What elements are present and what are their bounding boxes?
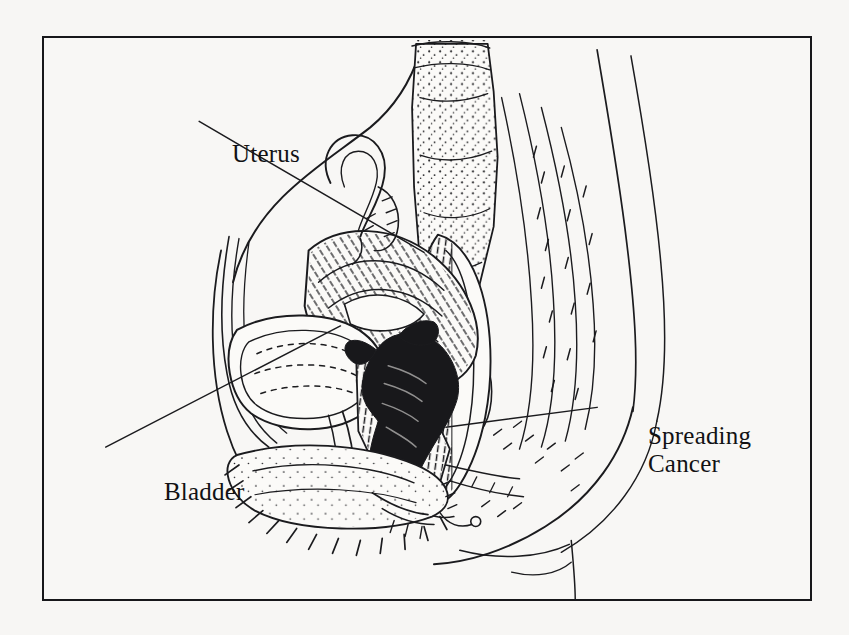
fascia-stipple-marks bbox=[533, 146, 596, 399]
presacral-fascia bbox=[502, 94, 595, 449]
tissue-texture-marks bbox=[482, 421, 583, 516]
label-bladder: Bladder bbox=[164, 478, 245, 506]
label-spreading-cancer: Spreading Cancer bbox=[648, 422, 751, 478]
figure-frame-border: Uterus Bladder Spreading Cancer bbox=[42, 36, 812, 601]
anatomical-illustration bbox=[44, 38, 810, 599]
label-uterus: Uterus bbox=[232, 140, 300, 168]
screenshot-root: Uterus Bladder Spreading Cancer bbox=[0, 0, 849, 635]
